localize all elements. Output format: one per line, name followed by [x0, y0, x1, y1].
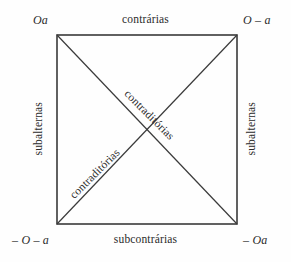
edge-label-subalternas-left: subalternas — [33, 94, 45, 164]
edge-label-contrarias: contrárias — [0, 14, 291, 26]
edge-label-subalternas-right: subalternas — [246, 94, 258, 164]
square-of-opposition-diagram: Oa O – a – O – a – Oa contrárias subcont… — [0, 0, 291, 262]
edge-label-subcontrarias: subcontrárias — [0, 234, 291, 246]
